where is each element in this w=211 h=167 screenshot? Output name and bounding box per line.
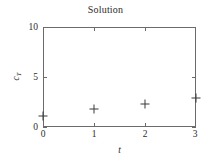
x-axis-title: t (43, 145, 196, 155)
plot-area (43, 27, 196, 127)
x-tick-label-1: 1 (84, 129, 104, 139)
x-tick-mark-1 (94, 123, 95, 127)
y-tick-mark-0-right (192, 127, 196, 128)
x-tick-mark-3-top (195, 27, 196, 31)
x-tick-mark-3 (195, 123, 196, 127)
y-axis-title-base: c (11, 76, 21, 80)
y-tick-mark-5-right (192, 77, 196, 78)
y-tick-label-10: 10 (12, 22, 38, 32)
y-tick-mark-0 (43, 127, 47, 128)
y-axis-title-subscript: T (15, 72, 23, 76)
y-tick-mark-5 (43, 77, 47, 78)
x-tick-label-2: 2 (135, 129, 155, 139)
x-tick-mark-2 (145, 123, 146, 127)
chart-title: Solution (0, 4, 211, 15)
x-tick-mark-0-top (43, 27, 44, 31)
x-tick-label-0: 0 (33, 129, 53, 139)
x-tick-mark-0 (43, 123, 44, 127)
x-tick-mark-2-top (145, 27, 146, 31)
x-tick-label-3: 3 (185, 129, 205, 139)
y-axis-title: cT (11, 64, 24, 88)
chart-figure: Solution 10 5 0 0 1 2 3 t cT (0, 0, 211, 167)
x-tick-mark-1-top (94, 27, 95, 31)
